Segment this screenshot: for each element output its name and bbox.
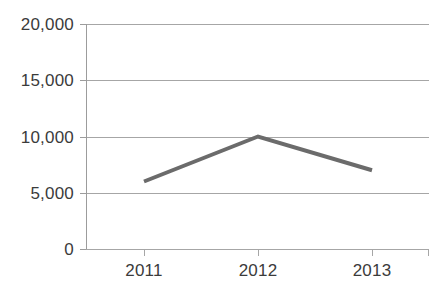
y-axis-label-5000: 5,000	[0, 185, 74, 202]
y-axis-labels: 20,000 15,000 10,000 5,000 0	[0, 0, 74, 290]
x-axis-label-2011: 2011	[104, 262, 184, 279]
gridline-15000	[86, 80, 429, 81]
x-tick-2012	[258, 250, 259, 256]
y-axis-line	[86, 24, 87, 250]
y-tick-10000	[80, 137, 86, 138]
x-tick-end	[428, 250, 429, 256]
gridline-20000	[86, 24, 429, 25]
y-axis-label-0: 0	[0, 241, 74, 258]
y-tick-0	[80, 249, 86, 250]
y-tick-15000	[80, 80, 86, 81]
x-axis-label-2012: 2012	[218, 262, 298, 279]
gridline-5000	[86, 193, 429, 194]
x-tick-2013	[372, 250, 373, 256]
y-axis-label-15000: 15,000	[0, 72, 74, 89]
y-tick-20000	[80, 24, 86, 25]
x-axis-label-2013: 2013	[332, 262, 412, 279]
x-tick-2011	[144, 250, 145, 256]
line-chart: 20,000 15,000 10,000 5,000 0 2011 2012 2…	[0, 0, 432, 290]
y-tick-5000	[80, 193, 86, 194]
y-axis-label-10000: 10,000	[0, 129, 74, 146]
y-axis-label-20000: 20,000	[0, 16, 74, 33]
gridline-10000	[86, 137, 429, 138]
plot-area	[86, 24, 429, 249]
